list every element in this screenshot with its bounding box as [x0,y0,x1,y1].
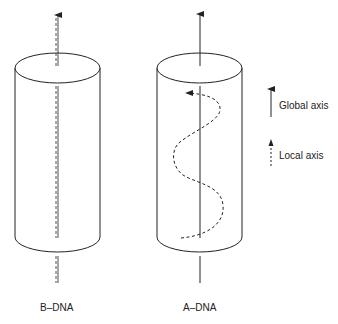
legend-global-axis-label: Global axis [279,100,328,111]
a-dna-local-axis-helix [174,90,224,238]
b-dna-label: B–DNA [40,302,73,313]
dna-axis-diagram [0,0,338,324]
a-dna-label: A–DNA [183,302,216,313]
legend-local-axis-arrow [269,139,274,166]
b-dna-cylinder [15,53,100,252]
legend-local-axis-label: Local axis [279,150,323,161]
